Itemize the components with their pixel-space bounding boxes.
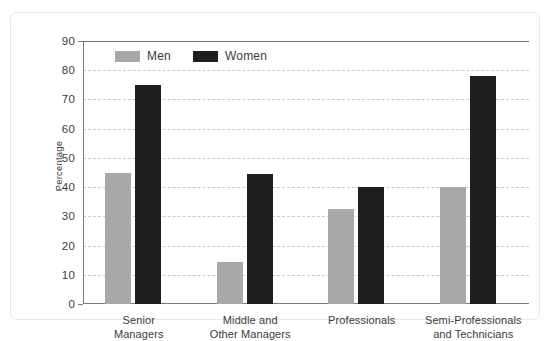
category-label: Middle andOther Managers <box>195 313 307 341</box>
category-label-line: Senior <box>83 313 195 327</box>
bar-men <box>105 173 131 305</box>
bar-women <box>358 187 384 304</box>
bar-men <box>328 209 354 304</box>
y-tick-label: 20 <box>62 240 75 252</box>
category-label-line: and Technicians <box>418 327 530 341</box>
category-label-line: Middle and <box>195 313 307 327</box>
y-tick-label: 60 <box>62 123 75 135</box>
bars-row <box>195 41 307 304</box>
y-tick-label: 70 <box>62 93 75 105</box>
bars-row <box>306 41 418 304</box>
chart-legend: MenWomen <box>115 49 267 63</box>
chart-card: Percentage 9080706050403020100 SeniorMan… <box>10 12 540 320</box>
bars-row <box>418 41 530 304</box>
plot-area: 9080706050403020100 SeniorManagersMiddle… <box>83 41 529 304</box>
y-tick-label: 80 <box>62 64 75 76</box>
category-label-line: Managers <box>83 327 195 341</box>
category-label: Professionals <box>306 313 418 327</box>
legend-swatch-women <box>193 51 218 62</box>
category-group: Professionals <box>306 41 418 304</box>
category-group: SeniorManagers <box>83 41 195 304</box>
legend-swatch-men <box>115 51 140 62</box>
y-tick-label: 40 <box>62 181 75 193</box>
legend-entry-men: Men <box>115 49 171 63</box>
bar-men <box>217 262 243 304</box>
y-tick-label: 90 <box>62 35 75 47</box>
bar-women <box>470 76 496 304</box>
y-tick-mark <box>78 304 83 305</box>
bar-men <box>440 187 466 304</box>
legend-entry-women: Women <box>193 49 267 63</box>
category-label: Semi-Professionalsand Technicians <box>418 313 530 341</box>
y-tick-label: 10 <box>62 269 75 281</box>
category-label-line: Professionals <box>306 313 418 327</box>
y-tick-label: 30 <box>62 210 75 222</box>
bar-women <box>135 85 161 304</box>
bars-row <box>83 41 195 304</box>
category-label-line: Semi-Professionals <box>418 313 530 327</box>
category-group: Semi-Professionalsand Technicians <box>418 41 530 304</box>
y-tick-label: 0 <box>68 298 75 310</box>
category-label-line: Other Managers <box>195 327 307 341</box>
category-label: SeniorManagers <box>83 313 195 341</box>
legend-label: Men <box>147 49 171 63</box>
legend-label: Women <box>225 49 267 63</box>
category-group: Middle andOther Managers <box>195 41 307 304</box>
bar-women <box>247 174 273 304</box>
y-tick-label: 50 <box>62 152 75 164</box>
